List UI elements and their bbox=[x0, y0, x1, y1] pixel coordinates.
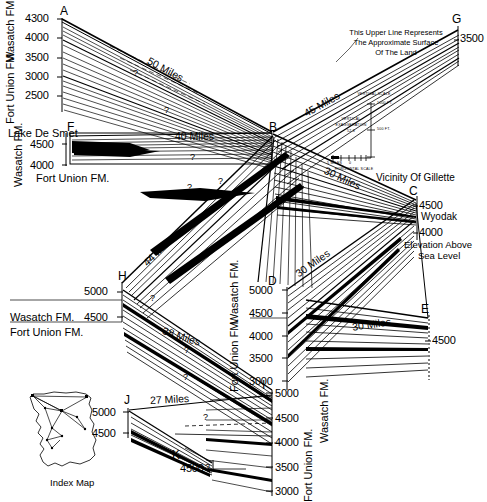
vertical-exaggeration-line-1: VERTICAL bbox=[330, 117, 372, 121]
panel-H-tick-5000: 5000 bbox=[84, 285, 108, 297]
panel-D-formation-lower: Fort Union FM. bbox=[228, 326, 240, 392]
panel-C-tick-4000: 4000 bbox=[419, 226, 443, 238]
query-mark: ? bbox=[205, 462, 210, 472]
vertical-exaggeration-line-2: EXAGGERATION bbox=[326, 123, 376, 127]
panel-I-formation-lower: Fort Union FM. bbox=[302, 444, 314, 502]
panel-J-tick-5000: 5000 bbox=[92, 406, 116, 418]
panel-I-tick-4500: 4500 bbox=[275, 412, 299, 424]
elevation-caption-line-2: Sea Level bbox=[418, 250, 460, 261]
elevation-caption-line-1: Elevation Above bbox=[404, 239, 472, 250]
panel-F-tick-4000: 4000 bbox=[30, 159, 54, 171]
query-mark: ? bbox=[117, 147, 122, 157]
horizontal-scale-left: 5 MILES bbox=[327, 161, 342, 165]
panel-label-J: J bbox=[124, 393, 130, 407]
panel-I-tick-4000: 4000 bbox=[275, 436, 299, 448]
panel-C-tick-4500: 4500 bbox=[419, 199, 443, 211]
distance-F-B: 40 Miles bbox=[175, 130, 214, 142]
panel-A-formation-lower: Fort Union FM. bbox=[4, 62, 16, 124]
distance-J-I: 27 Miles bbox=[150, 392, 190, 406]
query-mark: ? bbox=[150, 293, 155, 303]
panel-G-tick-3500: 3500 bbox=[460, 32, 484, 44]
panel-H-formation-lower: Fort Union FM. bbox=[10, 326, 83, 338]
query-mark: ? bbox=[133, 68, 138, 78]
vertical-scale-label: VERTICAL SCALE bbox=[352, 92, 396, 96]
query-mark: ? bbox=[187, 182, 192, 192]
panel-I-tick-3000: 3000 bbox=[275, 485, 299, 497]
panel-D-formation-upper: Wasatch FM. bbox=[228, 276, 240, 324]
query-mark: ? bbox=[164, 105, 169, 115]
fence-I-beds bbox=[206, 396, 272, 492]
fence-D-C bbox=[288, 200, 414, 382]
panel-A-tick-4300: 4300 bbox=[25, 12, 49, 24]
panel-D-tick-3000: 3000 bbox=[249, 375, 273, 387]
panel-label-E: E bbox=[421, 302, 429, 316]
fence-C-E bbox=[306, 203, 428, 377]
vicinity-label: Vicinity Of Gillette bbox=[376, 172, 455, 183]
query-mark: ? bbox=[184, 345, 189, 355]
panel-K-tick-4500: 4500 bbox=[180, 462, 204, 474]
surface-note-line-3: Of The Land bbox=[337, 48, 455, 58]
panel-H-tick-4500: 4500 bbox=[84, 311, 108, 323]
index-map-caption: Index Map bbox=[50, 477, 94, 488]
query-mark: ? bbox=[190, 152, 195, 162]
panel-I-tick-3500: 3500 bbox=[275, 461, 299, 473]
surface-note-line-1: This Upper Line Represents bbox=[337, 28, 455, 38]
query-mark: ? bbox=[218, 176, 223, 186]
panel-D-tick-4500: 4500 bbox=[249, 307, 273, 319]
panel-F-tick-4500: 4500 bbox=[30, 138, 54, 150]
panel-label-B: B bbox=[269, 120, 277, 134]
panel-A-tick-3000: 3000 bbox=[25, 70, 49, 82]
horizontal-scale-zero: 0 bbox=[349, 161, 351, 165]
horizontal-scale-label: HORIZONTAL SCALE bbox=[326, 167, 382, 171]
panel-F-formation-upper: Wasatch FM. bbox=[12, 143, 24, 187]
panel-A-tick-3500: 3500 bbox=[25, 51, 49, 63]
vertical-tick-1000ft: 1000 FT. bbox=[377, 101, 393, 105]
panel-J-tick-4500: 4500 bbox=[92, 427, 116, 439]
index-map-network bbox=[33, 396, 87, 448]
query-mark: ? bbox=[183, 372, 188, 382]
panel-F-formation-lower: Fort Union FM. bbox=[36, 172, 109, 184]
panel-A-tick-4000: 4000 bbox=[25, 31, 49, 43]
panel-label-I: I bbox=[262, 378, 265, 392]
surface-note-line-2: The Approximate Surface bbox=[337, 38, 455, 48]
panel-A-axis bbox=[57, 18, 62, 112]
panel-label-K: K bbox=[172, 448, 180, 462]
query-mark: ? bbox=[146, 255, 151, 265]
panel-label-A: A bbox=[60, 4, 68, 18]
panel-E-tick-4500: 4500 bbox=[432, 334, 456, 346]
panel-I-tick-5000: 5000 bbox=[275, 387, 299, 399]
panel-D-tick-5000: 5000 bbox=[249, 284, 273, 296]
panel-label-C: C bbox=[409, 184, 418, 198]
fence-F-B bbox=[70, 133, 272, 160]
panel-label-G: G bbox=[452, 12, 461, 26]
vertical-exaggeration-value: 52.8 bbox=[341, 129, 361, 133]
vertical-tick-500ft: 500 FT. bbox=[377, 127, 390, 131]
query-mark: ? bbox=[203, 412, 208, 422]
panel-J-axis bbox=[123, 408, 129, 438]
panel-D-tick-3500: 3500 bbox=[249, 352, 273, 364]
panel-A-tick-2500: 2500 bbox=[25, 89, 49, 101]
surface-note: This Upper Line Represents The Approxima… bbox=[337, 28, 455, 58]
panel-H-formation-upper: Wasatch FM. bbox=[10, 311, 74, 323]
panel-I-formation-upper: Wasatch FM. bbox=[318, 393, 330, 443]
wyodak-label: Wyodak bbox=[421, 211, 457, 222]
panel-D-tick-4000: 4000 bbox=[249, 330, 273, 342]
panel-label-H: H bbox=[118, 269, 127, 283]
